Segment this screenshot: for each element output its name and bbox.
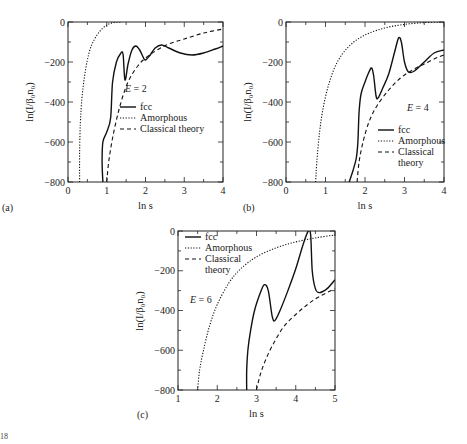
y-tick-label: −200 (154, 265, 175, 276)
y-tick-label: 0 (170, 226, 175, 237)
energy-annotation: E = 2 (124, 83, 147, 94)
legend: fccAmorphousClassical theory (120, 101, 204, 134)
legend-label: Classical (205, 253, 241, 264)
y-tick-label: −800 (262, 177, 283, 188)
panel-b: 012340−200−400−600−800ln sln(I/β₀n₀)(b)E… (242, 17, 447, 215)
legend: fccAmorphousClassicaltheory (378, 124, 445, 168)
x-tick-label: 0 (66, 185, 71, 196)
series-classical-theory (257, 289, 336, 390)
y-axis-label: ln(I/β₀n₀) (134, 291, 146, 331)
y-tick-label: −600 (154, 345, 175, 356)
x-axis-label: ln s (249, 408, 264, 419)
y-tick-label: −600 (44, 137, 65, 148)
legend-label: theory (205, 264, 231, 275)
x-axis-label: ln s (138, 200, 153, 211)
y-axis-label: ln(I/β₀n₀) (24, 82, 36, 122)
x-tick-label: 3 (402, 185, 407, 196)
x-tick-label: 1 (323, 185, 328, 196)
panel-tag: (a) (2, 202, 13, 214)
y-tick-label: 0 (278, 17, 283, 28)
series-fcc (349, 37, 444, 182)
x-axis-label: ln s (358, 200, 373, 211)
legend-label: fcc (398, 124, 411, 135)
panel-a: 012340−200−400−600−800ln sln(I/β₀n₀)(a)E… (2, 17, 226, 215)
x-tick-label: 5 (333, 393, 338, 404)
x-tick-label: 3 (254, 393, 259, 404)
x-tick-label: 4 (221, 185, 226, 196)
legend-label: Classical theory (140, 123, 204, 134)
panel-tag: (b) (243, 202, 255, 214)
legend-label: Amorphous (140, 112, 187, 123)
y-tick-label: −800 (154, 385, 175, 396)
y-tick-label: −400 (154, 305, 175, 316)
x-tick-label: 4 (442, 185, 447, 196)
y-tick-label: −200 (262, 57, 283, 68)
legend-label: Amorphous (205, 242, 252, 253)
series-amorphous (80, 22, 123, 182)
series-fcc (247, 230, 335, 390)
energy-annotation: E = 4 (406, 102, 429, 113)
panel-tag: (c) (137, 409, 148, 421)
x-tick-label: 2 (143, 185, 148, 196)
y-tick-label: 0 (60, 17, 65, 28)
y-tick-label: −800 (44, 177, 65, 188)
y-tick-label: −600 (262, 137, 283, 148)
x-tick-label: 2 (363, 185, 368, 196)
y-axis-label: ln(I/β₀n₀) (242, 82, 254, 122)
x-tick-label: 0 (284, 185, 289, 196)
x-tick-label: 3 (182, 185, 187, 196)
x-tick-label: 2 (215, 393, 220, 404)
legend: fccAmorphousClassicaltheory (185, 231, 252, 275)
y-tick-label: −400 (262, 97, 283, 108)
y-tick-label: −200 (44, 57, 65, 68)
x-tick-label: 4 (293, 393, 298, 404)
legend-label: fcc (205, 231, 218, 242)
x-tick-label: 1 (176, 393, 181, 404)
energy-annotation: E = 6 (189, 294, 212, 305)
legend-label: theory (398, 157, 424, 168)
legend-label: fcc (140, 101, 153, 112)
legend-label: Classical (398, 146, 434, 157)
y-tick-label: −400 (44, 97, 65, 108)
figure: 012340−200−400−600−800ln sln(I/β₀n₀)(a)E… (0, 0, 467, 444)
figure-number: 18 (0, 432, 8, 441)
panel-c: 123450−200−400−600−800ln sln(I/β₀n₀)(c)E… (134, 226, 338, 422)
legend-label: Amorphous (398, 135, 445, 146)
x-tick-label: 1 (104, 185, 109, 196)
